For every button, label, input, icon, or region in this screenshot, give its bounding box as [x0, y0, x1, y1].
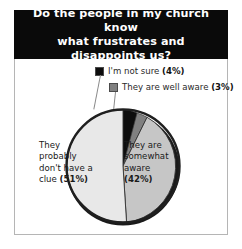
legend-swatch-well-aware-icon	[109, 83, 118, 92]
chart-title-banner: Do the people in my church know what fru…	[14, 10, 228, 59]
page-title: Do the people in my church know what fru…	[14, 7, 228, 63]
legend-item-well-aware: They are well aware (3%)	[109, 82, 234, 92]
legend-label-not-sure: I'm not sure (4%)	[108, 66, 185, 76]
legend-item-not-sure: I'm not sure (4%)	[95, 66, 185, 76]
pie-label-somewhat-aware: They are somewhat aware (42%)	[124, 140, 186, 186]
legend-label-well-aware: They are well aware (3%)	[122, 82, 234, 92]
chart-legend: I'm not sure (4%) They are well aware (3…	[14, 62, 228, 98]
chart-figure: Do the people in my church know what fru…	[0, 0, 242, 249]
pie-label-no-clue: They probably don't have a clue (51%)	[39, 140, 105, 186]
